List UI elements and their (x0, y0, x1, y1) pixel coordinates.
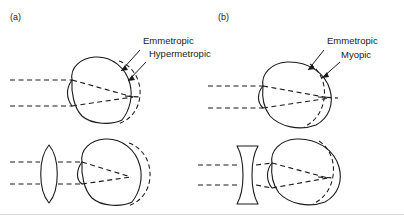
hypermetropic-eye-uncorrected: Emmetropic Hypermetropic (10, 35, 211, 124)
hypermetropic-label: Hypermetropic (149, 48, 211, 59)
myopic-eye-corrected (198, 139, 340, 205)
ray-lower-focus-b (272, 178, 328, 188)
emmetropic-label: Emmetropic (143, 35, 194, 46)
hypermetropic-globe-dashed-corrected (128, 143, 150, 206)
emmetropic-arrowhead-b (308, 64, 315, 70)
ray-upper-focus (82, 162, 131, 177)
ray-focus-extension-b (318, 97, 338, 98)
ray-lower-refracted-b (263, 98, 330, 108)
myopic-globe-dashed-corrected (313, 141, 333, 204)
panel-a-tag: (a) (10, 12, 21, 22)
refractive-error-figure: (a) Emmetropic Hypermetropic (0, 0, 404, 218)
ray-lower-refracted (72, 97, 133, 106)
ray-upper-postlens-b (256, 163, 272, 165)
ray-upper-refracted-b (263, 86, 330, 98)
panel-a: (a) Emmetropic Hypermetropic (10, 12, 211, 206)
myopic-label: Myopic (341, 49, 371, 60)
panel-b: (b) Emmetropic Myopic (198, 12, 378, 205)
hypermetropic-arrowhead (128, 75, 135, 81)
emmetropic-globe-outline-b (263, 62, 332, 128)
panel-b-tag: (b) (218, 12, 229, 22)
ray-upper-refracted (72, 80, 133, 97)
ray-lower-focus (82, 177, 131, 184)
ray-upper-focus-b (272, 163, 328, 178)
emmetropic-globe-outline (72, 57, 131, 123)
emmetropic-label-b: Emmetropic (327, 35, 378, 46)
convex-lens (41, 145, 58, 203)
myopic-eye-uncorrected: Emmetropic Myopic (208, 35, 378, 128)
hypermetropic-eye-corrected (10, 139, 150, 206)
concave-lens (237, 146, 258, 204)
emmetropic-globe-outline-corrected (82, 139, 141, 205)
